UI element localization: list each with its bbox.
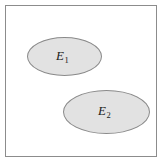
event-label-e1: E1 xyxy=(56,49,68,62)
event-label-e1-base: E xyxy=(56,48,64,63)
event-label-e2-base: E xyxy=(98,103,106,118)
sample-space-rectangle: E1 E2 xyxy=(5,5,157,157)
event-label-e1-subscript: 1 xyxy=(64,55,68,65)
event-label-e2-subscript: 2 xyxy=(106,110,110,120)
event-label-e2: E2 xyxy=(98,104,110,117)
diagram-canvas: E1 E2 xyxy=(0,0,167,168)
